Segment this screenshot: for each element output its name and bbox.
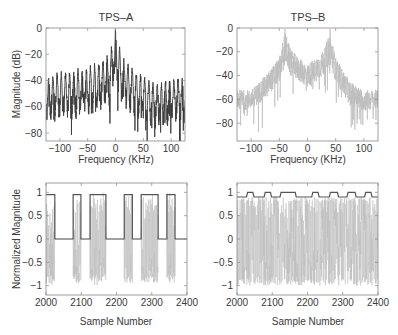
plot-area: −100−500501000−20−40−60−80 xyxy=(216,23,378,155)
x-tick-label: 0 xyxy=(305,143,311,154)
y-tick-label: 0 xyxy=(36,234,42,245)
x-tick-label: −50 xyxy=(79,143,96,154)
panel-tps-b-spectrum: TPS–B −100−500501000−20−40−60−80 Frequen… xyxy=(216,11,378,165)
data-traces xyxy=(46,193,187,285)
x-tick-label: 50 xyxy=(330,143,342,154)
y-axis-label: Magnitude (dB) xyxy=(11,50,22,118)
x-tick-label: 100 xyxy=(163,143,180,154)
y-tick-label: −1 xyxy=(222,280,234,291)
data-traces xyxy=(237,29,378,132)
y-tick-label: 1 xyxy=(36,187,42,198)
panel-tps-a-spectrum: TPS–A −100−500501000−20−40−60−80 Frequen… xyxy=(11,11,185,165)
y-tick-label: 0 xyxy=(227,23,233,34)
y-axis-label: Normalized Magnitude xyxy=(11,189,22,289)
x-tick-label: 2300 xyxy=(332,297,355,308)
panel-tps-a-time: 2000210022002300240010.50−0.5−1 Sample N… xyxy=(11,183,199,327)
x-tick-label: 2200 xyxy=(105,297,128,308)
panel-title: TPS–B xyxy=(291,11,326,23)
y-tick-label: −20 xyxy=(25,49,42,60)
x-tick-label: 0 xyxy=(113,143,119,154)
panel-title: TPS–A xyxy=(99,11,135,23)
y-tick-label: −60 xyxy=(216,94,233,105)
y-tick-label: 0 xyxy=(36,23,42,34)
panel-tps-b-time: 2000210022002300240010.50−0.5−1 Sample N… xyxy=(213,183,389,327)
x-tick-label: 2100 xyxy=(70,297,93,308)
x-axis-label: Sample Number xyxy=(80,316,153,327)
x-tick-label: 50 xyxy=(138,143,150,154)
x-tick-label: −50 xyxy=(271,143,288,154)
x-tick-label: 2400 xyxy=(176,297,199,308)
x-axis-label: Sample Number xyxy=(272,316,345,327)
y-tick-label: 0 xyxy=(227,234,233,245)
plot-area: 2000210022002300240010.50−0.5−1 xyxy=(22,183,198,308)
x-tick-label: 2400 xyxy=(367,297,390,308)
y-tick-label: −0.5 xyxy=(22,257,42,268)
x-axis-label: Frequency (KHz) xyxy=(270,154,346,165)
x-tick-label: 2000 xyxy=(35,297,58,308)
y-tick-label: −40 xyxy=(25,75,42,86)
x-tick-label: −100 xyxy=(49,143,72,154)
y-tick-label: 0.5 xyxy=(219,210,233,221)
y-tick-label: −0.5 xyxy=(213,257,233,268)
x-tick-label: 2000 xyxy=(226,297,249,308)
x-tick-label: 2100 xyxy=(261,297,284,308)
plot-area: 2000210022002300240010.50−0.5−1 xyxy=(213,183,389,308)
y-tick-label: −40 xyxy=(216,70,233,81)
x-tick-label: 2300 xyxy=(141,297,164,308)
data-traces xyxy=(237,192,378,285)
y-tick-label: −20 xyxy=(216,46,233,57)
x-tick-label: 2200 xyxy=(296,297,319,308)
y-tick-label: 1 xyxy=(227,187,233,198)
plot-area: −100−500501000−20−40−60−80 xyxy=(25,23,185,155)
x-axis-label: Frequency (KHz) xyxy=(78,154,154,165)
y-tick-label: −80 xyxy=(25,128,42,139)
y-tick-label: 0.5 xyxy=(28,210,42,221)
x-tick-label: −100 xyxy=(240,143,263,154)
y-tick-label: −1 xyxy=(31,280,43,291)
x-tick-label: 100 xyxy=(356,143,373,154)
figure: TPS–A −100−500501000−20−40−60−80 Frequen… xyxy=(0,0,398,335)
y-tick-label: −60 xyxy=(25,101,42,112)
data-traces xyxy=(46,29,185,147)
y-tick-label: −80 xyxy=(216,118,233,129)
